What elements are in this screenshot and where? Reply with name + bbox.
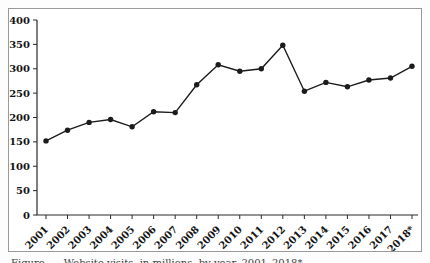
figure-caption: Figure Website visits, in millions, by y…: [11, 257, 427, 263]
x-tick-label: 2005: [109, 224, 136, 251]
data-point: [108, 117, 113, 122]
x-tick-label: 2004: [88, 224, 115, 251]
y-tick-label: 350: [9, 39, 30, 50]
x-tick-label: 2016: [346, 224, 373, 251]
data-point: [259, 66, 264, 71]
line-chart-canvas: 0501001502002503003504002001200220032004…: [9, 9, 421, 251]
x-tick-label: 2002: [44, 224, 71, 251]
x-tick-label: 2015: [324, 224, 351, 251]
data-point: [237, 69, 242, 74]
data-point: [151, 109, 156, 114]
y-tick-label: 100: [9, 161, 30, 172]
data-point: [86, 120, 91, 125]
data-point: [65, 128, 70, 133]
y-tick-label: 250: [9, 88, 30, 99]
data-point: [173, 110, 178, 115]
x-tick-label: 2001: [23, 224, 50, 251]
data-point: [323, 80, 328, 85]
x-tick-label: 2013: [281, 224, 308, 251]
line-chart-frame: 0501001502002503003504002001200220032004…: [8, 8, 422, 252]
x-tick-label: 2011: [238, 224, 265, 251]
data-point: [388, 75, 393, 80]
y-tick-label: 0: [23, 210, 30, 221]
data-point: [302, 89, 307, 94]
y-tick-label: 200: [9, 112, 30, 123]
data-point: [280, 43, 285, 48]
y-tick-label: 50: [16, 185, 30, 196]
x-tick-label: 2008: [174, 224, 201, 251]
data-point: [366, 77, 371, 82]
data-point: [345, 84, 350, 89]
y-tick-label: 400: [9, 15, 30, 26]
data-point: [194, 82, 199, 87]
x-tick-label: 2014: [303, 224, 330, 251]
data-point: [216, 62, 221, 67]
x-tick-label: 2012: [260, 224, 287, 251]
data-line: [46, 45, 412, 141]
x-tick-label: 2010: [217, 224, 244, 251]
y-tick-label: 150: [9, 136, 30, 147]
y-tick-label: 300: [9, 63, 30, 74]
data-point: [409, 64, 414, 69]
figure-page: 0501001502002503003504002001200220032004…: [0, 0, 430, 263]
x-tick-label: 2006: [131, 224, 158, 251]
x-tick-label: 2003: [66, 224, 93, 251]
axis-lines: [37, 20, 418, 215]
data-point: [129, 124, 134, 129]
x-tick-label: 2009: [195, 224, 222, 251]
x-tick-label: 2007: [152, 224, 179, 251]
data-point: [43, 138, 48, 143]
